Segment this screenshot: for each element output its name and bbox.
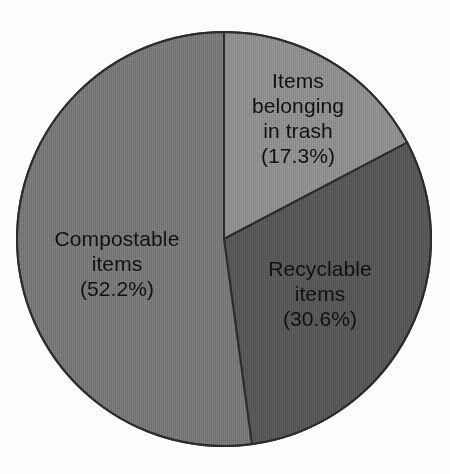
pie-slice-compostable[interactable] <box>17 32 252 446</box>
pie-chart-svg <box>0 0 450 474</box>
pie-chart-figure: Items belonging in trash (17.3%) Recycla… <box>0 0 450 474</box>
